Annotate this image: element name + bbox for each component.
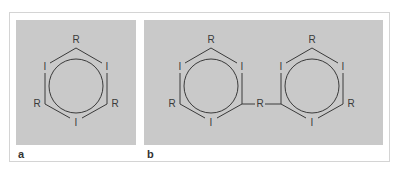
sub-a-top: R <box>72 34 79 45</box>
sub-br-bottom: I <box>311 117 314 128</box>
aromatic-circle-b-right <box>285 59 339 113</box>
bridge-r: R <box>256 98 263 109</box>
sub-br-top: R <box>308 34 315 45</box>
sub-a-bottom: I <box>75 117 78 128</box>
ring-b-right: R I I R I <box>280 34 355 128</box>
panel-label-b: b <box>147 148 154 160</box>
sub-a-lower-left: R <box>33 98 40 109</box>
panel-label-a: a <box>18 148 24 160</box>
sub-br-upper-right: I <box>342 61 345 72</box>
sub-bl-upper-right: I <box>241 61 244 72</box>
sub-a-upper-right: I <box>106 61 109 72</box>
sub-br-lower-right: R <box>347 98 354 109</box>
sub-bl-lower-left: R <box>168 98 175 109</box>
bridge: R <box>242 98 281 109</box>
aromatic-circle-a <box>49 59 103 113</box>
ring-b-left: R I I R I <box>168 34 243 128</box>
sub-bl-bottom: I <box>210 117 213 128</box>
aromatic-circle-b-left <box>184 59 238 113</box>
sub-bl-top: R <box>207 34 214 45</box>
sub-bl-upper-left: I <box>179 61 182 72</box>
chemical-structures: R I I R R I R I I R I R R I I <box>0 0 401 171</box>
sub-a-upper-left: I <box>44 61 47 72</box>
ring-a: R I I R R I <box>33 34 118 128</box>
sub-a-lower-right: R <box>111 98 118 109</box>
sub-br-upper-left: I <box>280 61 283 72</box>
